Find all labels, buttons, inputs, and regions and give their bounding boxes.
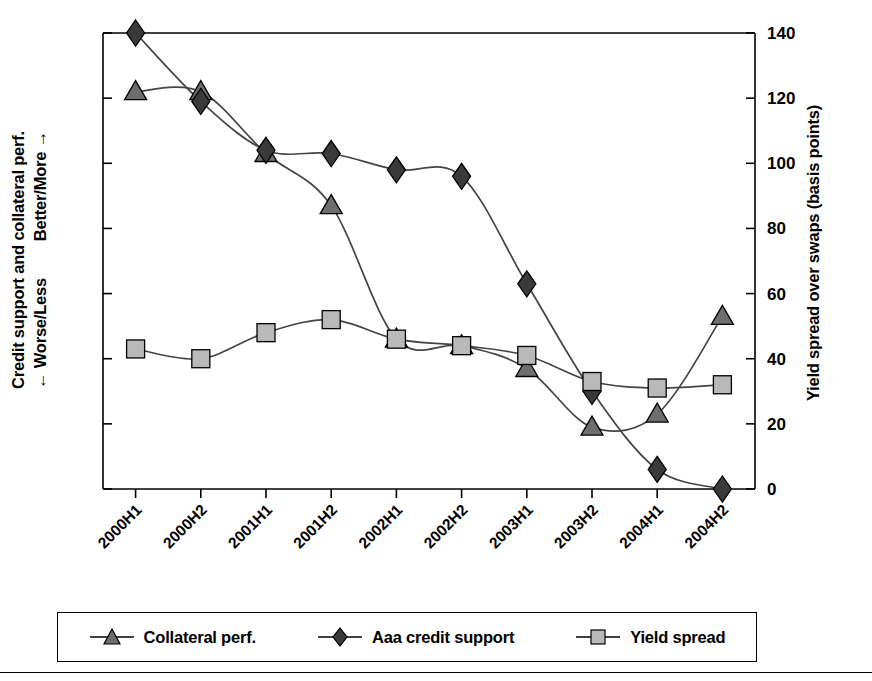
- data-point-diamond: [648, 456, 666, 482]
- y-axis-tick-label: 40: [767, 350, 786, 369]
- data-point-square: [387, 330, 405, 348]
- data-point-triangle: [711, 305, 733, 324]
- data-point-diamond: [322, 141, 340, 167]
- x-axis-tick-label: 2003H2: [551, 501, 601, 551]
- y-axis-tick-label: 80: [767, 219, 786, 238]
- data-point-square: [453, 337, 471, 355]
- chart-page: Credit support and collateral perf. ← Wo…: [0, 0, 872, 681]
- data-point-square: [322, 311, 340, 329]
- y-axis-tick-label: 0: [767, 480, 776, 499]
- data-point-diamond: [387, 157, 405, 183]
- data-point-square: [257, 324, 275, 342]
- bottom-divider: [0, 672, 872, 673]
- triangle-marker-icon: [89, 626, 135, 648]
- x-axis-tick-label: 2003H1: [486, 501, 537, 552]
- chart-legend: Collateral perf. Aaa credit support Yiel…: [57, 612, 757, 662]
- y-axis-tick-label: 60: [767, 285, 786, 304]
- data-point-diamond: [453, 163, 471, 189]
- legend-item-yield-spread[interactable]: Yield spread: [575, 626, 725, 648]
- x-axis-tick-label: 2001H1: [225, 501, 276, 552]
- y-axis-tick-label: 140: [767, 24, 795, 43]
- series-line-diamond: [136, 33, 723, 489]
- y-axis-tick-label: 100: [767, 154, 795, 173]
- data-point-diamond: [713, 476, 731, 502]
- legend-item-aaa-credit-support[interactable]: Aaa credit support: [317, 626, 514, 648]
- y-axis-tick-label: 120: [767, 89, 795, 108]
- diamond-marker-icon: [317, 626, 363, 648]
- chart-svg: 0204060801001201402000H12000H22001H12001…: [0, 0, 872, 600]
- x-axis-tick-label: 2002H2: [420, 501, 470, 551]
- data-point-triangle: [581, 416, 603, 435]
- x-axis-tick-label: 2002H1: [355, 501, 406, 552]
- x-axis-tick-label: 2004H2: [681, 501, 731, 551]
- x-axis-tick-label: 2004H1: [616, 501, 667, 552]
- data-point-square: [127, 340, 145, 358]
- data-point-square: [583, 373, 601, 391]
- legend-label-aaa-credit-support: Aaa credit support: [372, 628, 514, 647]
- data-point-square: [192, 350, 210, 368]
- legend-label-collateral-perf: Collateral perf.: [144, 628, 256, 647]
- square-marker-icon: [575, 626, 621, 648]
- data-point-square: [518, 346, 536, 364]
- series-line-square: [136, 320, 723, 389]
- data-point-square: [648, 379, 666, 397]
- legend-item-collateral-perf[interactable]: Collateral perf.: [89, 626, 256, 648]
- x-axis-tick-label: 2001H2: [290, 501, 340, 551]
- series-line-triangle: [136, 87, 723, 431]
- y-axis-tick-label: 20: [767, 415, 786, 434]
- x-axis-tick-label: 2000H2: [160, 501, 210, 551]
- data-point-square: [713, 376, 731, 394]
- plot-area: 0204060801001201402000H12000H22001H12001…: [0, 0, 872, 600]
- x-axis-tick-label: 2000H1: [94, 501, 145, 552]
- data-point-triangle: [320, 195, 342, 214]
- data-point-diamond: [127, 20, 145, 46]
- legend-label-yield-spread: Yield spread: [630, 628, 725, 647]
